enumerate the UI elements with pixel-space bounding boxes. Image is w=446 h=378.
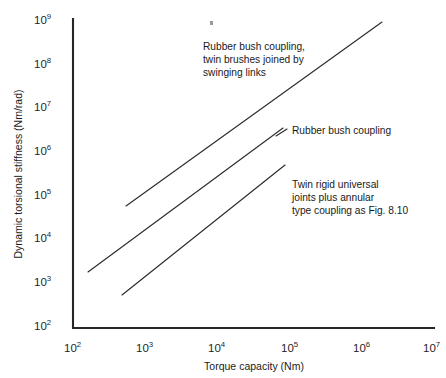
annotation-bottom-line-1: Twin rigid universal xyxy=(292,179,379,190)
y-tick-label: 105 xyxy=(34,187,52,201)
y-tick-label: 104 xyxy=(34,230,52,244)
x-tick-label: 106 xyxy=(353,340,370,354)
x-axis-title: Torque capacity (Nm) xyxy=(204,360,304,372)
annotation-bottom-line-3: type coupling as Fig. 8.10 xyxy=(292,205,408,216)
y-tick-label: 108 xyxy=(34,56,51,70)
y-tick-label: 102 xyxy=(34,318,51,332)
annotation-top-line-1: Rubber bush coupling, xyxy=(203,41,305,52)
series-line-rubber-bush-coupling xyxy=(88,128,283,272)
annotation-top-line-2: twin brushes joined by xyxy=(203,54,305,65)
x-tick-label: 105 xyxy=(281,340,299,354)
x-axis-tick-labels: 102 103 104 105 106 107 xyxy=(64,340,440,354)
x-tick-label: 104 xyxy=(208,340,226,354)
y-axis-title: Dynamic torsional stiffness (Nm/rad) xyxy=(12,89,24,258)
scan-artifact-speck xyxy=(210,21,213,25)
x-tick-label: 107 xyxy=(423,340,440,354)
chart-axes xyxy=(73,19,434,328)
annotation-bottom-line-2: joints plus annular xyxy=(291,192,375,203)
annotation-middle: Rubber bush coupling xyxy=(292,125,391,136)
x-tick-label: 103 xyxy=(136,340,153,354)
annotation-top-line-3: swinging links xyxy=(203,67,266,78)
annotation-middle-line-1: Rubber bush coupling xyxy=(292,125,391,136)
series-line-twin-rigid-universal-joints xyxy=(122,165,285,295)
y-axis-tick-labels: 109 108 107 106 105 104 103 102 xyxy=(34,12,52,332)
chart-figure: 109 108 107 106 105 104 103 102 102 103 … xyxy=(0,0,446,378)
y-tick-label: 106 xyxy=(34,143,51,157)
log-log-line-chart: 109 108 107 106 105 104 103 102 102 103 … xyxy=(0,0,446,378)
annotation-top: Rubber bush coupling, twin brushes joine… xyxy=(203,41,305,78)
annotation-bottom: Twin rigid universal joints plus annular… xyxy=(291,179,408,216)
y-tick-label: 109 xyxy=(34,12,51,26)
y-tick-label: 107 xyxy=(34,99,51,113)
y-tick-label: 103 xyxy=(34,274,51,288)
x-tick-label: 102 xyxy=(64,340,81,354)
